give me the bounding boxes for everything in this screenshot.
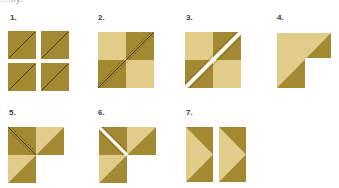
step-2-figure [98, 32, 154, 88]
step-6-figure [99, 127, 156, 183]
step-7-figure [186, 127, 246, 182]
quilt-steps-diagram [0, 0, 339, 188]
step-3-figure [185, 32, 241, 88]
step-1-figure [8, 31, 69, 91]
step-4-figure [277, 33, 331, 88]
step-5-figure [8, 127, 64, 183]
